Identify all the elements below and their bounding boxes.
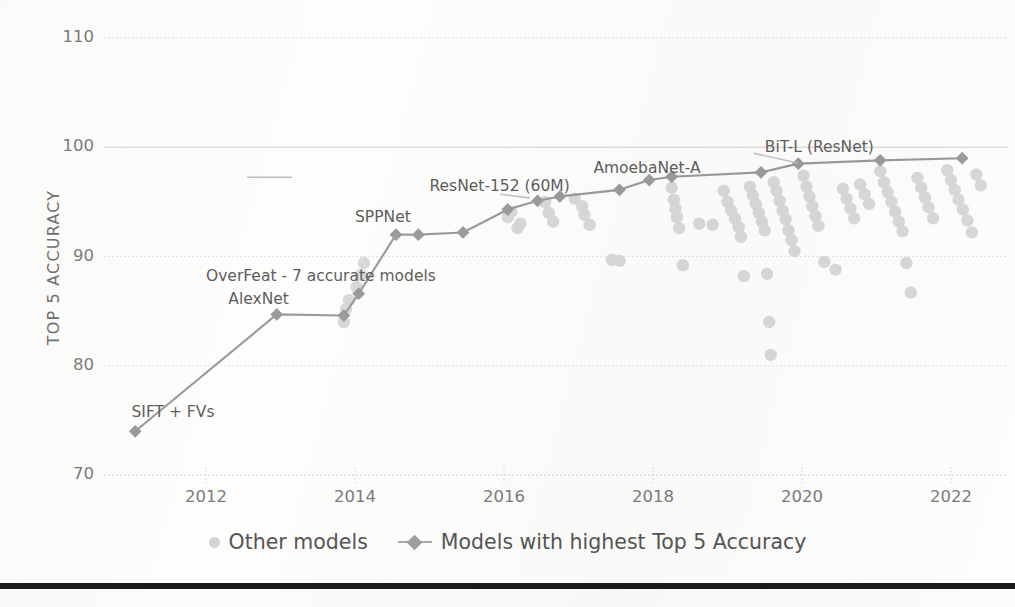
annotation-label: SPPNet <box>355 208 411 226</box>
gridlines-vertical <box>206 467 951 484</box>
chart-figure: TOP 5 ACCURACY 708090100110 201220142016… <box>0 0 1015 607</box>
plot-canvas <box>0 0 1015 607</box>
page-bottom-rule <box>0 583 1015 589</box>
x-tick-label: 2014 <box>319 487 391 506</box>
x-tick-label: 2020 <box>766 487 838 506</box>
legend-label-other-models: Other models <box>229 530 368 554</box>
x-tick-label: 2016 <box>468 487 540 506</box>
annotation-label: SIFT + FVs <box>132 403 215 421</box>
legend-dot-icon <box>209 537 220 548</box>
y-tick-label: 70 <box>48 464 94 483</box>
legend-line-diamond-icon <box>398 536 432 548</box>
y-tick-label: 100 <box>48 136 94 155</box>
legend-item-highest-accuracy[interactable]: Models with highest Top 5 Accuracy <box>398 530 807 554</box>
gridlines-horizontal <box>104 38 1008 475</box>
annotation-label: AmoebaNet-A <box>593 159 700 177</box>
annotation-label: BiT-L (ResNet) <box>765 138 874 156</box>
x-tick-label: 2022 <box>915 487 987 506</box>
chart-legend: Other models Models with highest Top 5 A… <box>0 530 1015 554</box>
x-tick-label: 2012 <box>170 487 242 506</box>
annotation-label: ResNet-152 (60M) <box>430 177 570 195</box>
page-bottom-strip <box>0 589 1015 607</box>
legend-label-highest-accuracy: Models with highest Top 5 Accuracy <box>441 530 807 554</box>
x-tick-label: 2018 <box>617 487 689 506</box>
annotation-label: AlexNet <box>228 290 289 308</box>
y-axis-title: TOP 5 ACCURACY <box>44 153 63 383</box>
annotation-label: OverFeat - 7 accurate models <box>206 267 436 285</box>
y-tick-label: 110 <box>48 27 94 46</box>
legend-item-other-models[interactable]: Other models <box>209 530 368 554</box>
y-tick-label: 80 <box>48 355 94 374</box>
y-tick-label: 90 <box>48 246 94 265</box>
